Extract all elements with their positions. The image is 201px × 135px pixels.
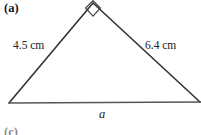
triangle-right-side [93, 3, 200, 102]
triangle-left-side [9, 3, 93, 103]
next-part-label: (c) [4, 125, 18, 135]
right-side-length-label: 6.4 cm [145, 39, 176, 52]
figure-panel: (a) 4.5 cm 6.4 cm a (c) [0, 0, 201, 135]
left-side-length-label: 4.5 cm [13, 39, 44, 52]
base-length-label: a [99, 108, 105, 121]
triangle-base [9, 102, 201, 103]
part-label: (a) [4, 1, 19, 15]
